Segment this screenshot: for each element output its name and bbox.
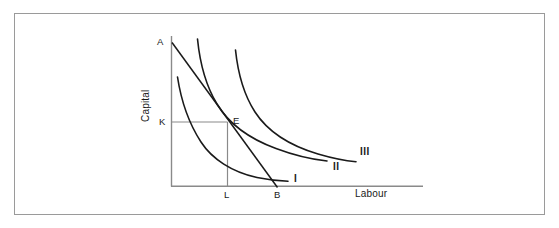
point-label-l: L xyxy=(224,190,229,200)
diagram-page: A E K L B I II III Labour Capital xyxy=(0,0,559,228)
curve-label-iii: III xyxy=(360,147,370,157)
y-axis-label: Capital xyxy=(141,89,151,122)
point-label-b: B xyxy=(274,190,281,200)
isoquant-curve-ii xyxy=(198,39,328,161)
curve-label-i: I xyxy=(294,174,297,184)
curve-label-ii: II xyxy=(333,162,340,172)
isoquant-curve-i xyxy=(178,77,289,181)
isoquant-curve-iii xyxy=(236,50,357,162)
point-label-k: K xyxy=(159,117,166,127)
point-label-e: E xyxy=(233,116,240,126)
x-axis-label: Labour xyxy=(355,189,387,199)
point-label-a: A xyxy=(157,37,164,47)
